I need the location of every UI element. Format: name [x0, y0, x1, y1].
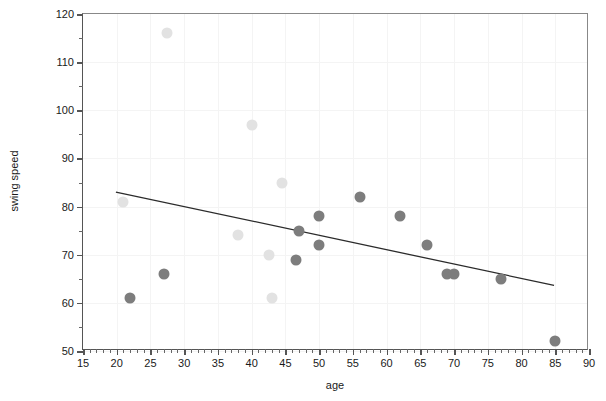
x-tick-minor [447, 349, 448, 353]
data-point [314, 211, 325, 222]
y-tick-major [77, 207, 83, 209]
x-tick-minor [130, 349, 131, 353]
y-tick-major [77, 110, 83, 112]
y-tick-minor [79, 134, 83, 135]
x-tick-minor [333, 349, 334, 353]
x-tick-major [83, 349, 85, 355]
x-tick-major [218, 349, 220, 355]
x-tick-minor [306, 349, 307, 353]
x-tick-label: 65 [414, 357, 426, 369]
x-tick-minor [137, 349, 138, 353]
x-tick-minor [103, 349, 104, 353]
x-tick-minor [90, 349, 91, 353]
data-point [290, 254, 301, 265]
x-tick-minor [299, 349, 300, 353]
x-tick-label: 30 [178, 357, 190, 369]
x-tick-label: 40 [246, 357, 258, 369]
data-point [118, 196, 129, 207]
x-tick-minor [366, 349, 367, 353]
data-point [395, 211, 406, 222]
x-tick-major [353, 349, 355, 355]
x-tick-minor [508, 349, 509, 353]
x-tick-major [150, 349, 152, 355]
y-tick-minor [79, 231, 83, 232]
x-tick-minor [461, 349, 462, 353]
y-tick-label: 100 [56, 104, 74, 116]
x-tick-label: 70 [448, 357, 460, 369]
y-tick-label: 110 [56, 56, 74, 68]
data-point [293, 225, 304, 236]
x-tick-label: 80 [515, 357, 527, 369]
x-tick-minor [171, 349, 172, 353]
x-tick-minor [535, 349, 536, 353]
data-point [354, 191, 365, 202]
x-tick-minor [434, 349, 435, 353]
x-tick-minor [225, 349, 226, 353]
data-point [422, 240, 433, 251]
x-tick-minor [245, 349, 246, 353]
x-tick-major [589, 349, 591, 355]
y-tick-major [77, 255, 83, 257]
x-tick-minor [272, 349, 273, 353]
x-tick-minor [501, 349, 502, 353]
x-tick-major [319, 349, 321, 355]
x-tick-minor [373, 349, 374, 353]
x-tick-minor [474, 349, 475, 353]
y-tick-minor [79, 279, 83, 280]
x-tick-minor [96, 349, 97, 353]
x-tick-minor [346, 349, 347, 353]
y-tick-minor [79, 183, 83, 184]
x-tick-label: 25 [144, 357, 156, 369]
x-tick-major [522, 349, 524, 355]
y-tick-major [77, 303, 83, 305]
data-point [158, 268, 169, 279]
x-tick-minor [515, 349, 516, 353]
x-tick-minor [191, 349, 192, 353]
data-point [266, 293, 277, 304]
x-tick-label: 35 [212, 357, 224, 369]
x-tick-minor [549, 349, 550, 353]
x-tick-minor [360, 349, 361, 353]
x-tick-minor [407, 349, 408, 353]
x-tick-minor [562, 349, 563, 353]
y-tick-minor [79, 86, 83, 87]
data-points-layer [83, 14, 587, 349]
x-tick-major [252, 349, 254, 355]
x-tick-minor [468, 349, 469, 353]
x-tick-minor [279, 349, 280, 353]
x-tick-minor [576, 349, 577, 353]
x-tick-major [387, 349, 389, 355]
x-tick-minor [258, 349, 259, 353]
x-tick-label: 75 [482, 357, 494, 369]
data-point [277, 177, 288, 188]
y-axis-title: swing speed [8, 150, 20, 211]
scatter-plot-figure: swing speed age 5060708090100110120 1520… [0, 0, 606, 401]
gridline-horizontal [83, 351, 587, 352]
x-tick-minor [123, 349, 124, 353]
y-tick-label: 70 [62, 249, 74, 261]
x-tick-major [420, 349, 422, 355]
x-tick-minor [380, 349, 381, 353]
y-tick-label: 50 [62, 345, 74, 357]
x-tick-minor [177, 349, 178, 353]
y-tick-major [77, 158, 83, 160]
x-tick-minor [231, 349, 232, 353]
x-tick-minor [569, 349, 570, 353]
y-tick-label: 90 [62, 152, 74, 164]
y-tick-label: 120 [56, 8, 74, 20]
x-tick-minor [204, 349, 205, 353]
x-tick-minor [326, 349, 327, 353]
y-tick-major [77, 62, 83, 64]
x-tick-minor [211, 349, 212, 353]
x-tick-major [285, 349, 287, 355]
y-tick-major [77, 14, 83, 16]
x-tick-label: 60 [380, 357, 392, 369]
x-tick-minor [542, 349, 543, 353]
x-tick-minor [144, 349, 145, 353]
y-tick-minor [79, 327, 83, 328]
x-tick-major [454, 349, 456, 355]
x-tick-label: 15 [77, 357, 89, 369]
x-tick-minor [441, 349, 442, 353]
x-tick-label: 50 [313, 357, 325, 369]
x-tick-minor [339, 349, 340, 353]
